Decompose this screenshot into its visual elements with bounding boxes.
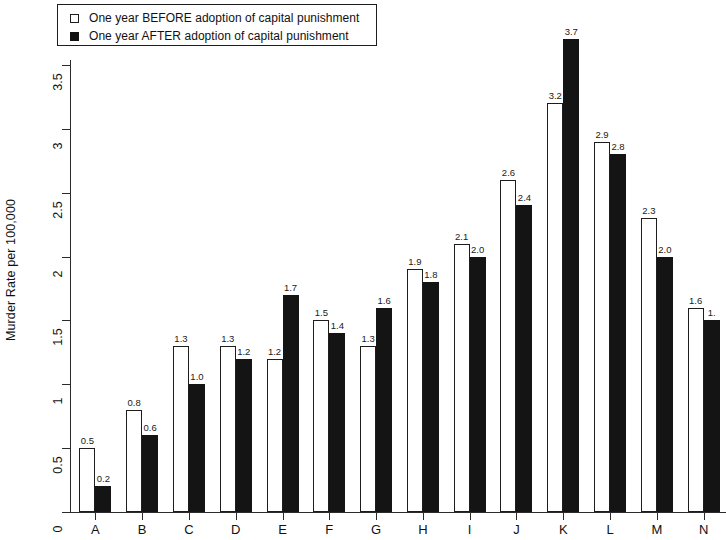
bar-value-label: 1.5 xyxy=(301,307,341,318)
legend-item-before: One year BEFORE adoption of capital puni… xyxy=(70,10,376,26)
bar-after xyxy=(329,333,345,512)
bar-after xyxy=(283,295,299,512)
bar-value-label: 0.2 xyxy=(83,473,123,484)
bar-value-label: 1.3 xyxy=(161,333,201,344)
bar-before xyxy=(313,320,329,512)
x-axis-tick-label: F xyxy=(309,522,349,537)
bar-before xyxy=(220,346,236,512)
x-axis-tick xyxy=(657,513,658,520)
chart-legend: One year BEFORE adoption of capital puni… xyxy=(57,4,377,46)
y-axis-tick-label: 2 xyxy=(51,254,65,294)
bar-value-label: 1. xyxy=(692,307,726,318)
x-axis-tick-label: H xyxy=(403,522,443,537)
bar-after xyxy=(704,320,720,512)
bar-after xyxy=(516,205,532,512)
x-axis-tick-label: E xyxy=(263,522,303,537)
bar-value-label: 2.0 xyxy=(458,244,498,255)
bar-before xyxy=(267,359,283,512)
x-axis-tick xyxy=(563,513,564,520)
bar-after xyxy=(423,282,439,512)
bar-value-label: 2.0 xyxy=(645,244,685,255)
bar-before xyxy=(641,218,657,512)
bar-value-label: 1.0 xyxy=(177,371,217,382)
bar-after xyxy=(610,154,626,512)
bar-value-label: 0.8 xyxy=(114,397,154,408)
x-axis-tick xyxy=(516,513,517,520)
x-axis-tick-label: N xyxy=(684,522,724,537)
bar-after xyxy=(95,486,111,512)
x-axis-tick xyxy=(283,513,284,520)
bar-before xyxy=(360,346,376,512)
legend-label-before: One year BEFORE adoption of capital puni… xyxy=(89,11,359,25)
legend-item-after: One year AFTER adoption of capital punis… xyxy=(70,28,376,44)
x-axis-tick xyxy=(189,513,190,520)
x-axis-tick xyxy=(236,513,237,520)
y-axis-tick-label: 0.5 xyxy=(51,445,65,485)
bar-before xyxy=(500,180,516,512)
bar-after xyxy=(470,257,486,512)
x-axis-tick-label: J xyxy=(496,522,536,537)
x-axis-tick-label: I xyxy=(450,522,490,537)
bar-after xyxy=(563,39,579,512)
y-axis-tick-label: 0 xyxy=(51,509,65,540)
y-axis-title: Murder Rate per 100,000 xyxy=(0,0,22,540)
x-axis-tick-label: A xyxy=(75,522,115,537)
x-axis-tick xyxy=(423,513,424,520)
bar-value-label: 2.3 xyxy=(629,205,669,216)
bar-after xyxy=(376,308,392,512)
x-axis-tick-label: L xyxy=(590,522,630,537)
bar-before xyxy=(454,244,470,512)
y-axis-tick-label: 1.5 xyxy=(51,317,65,357)
y-axis-tick-label: 3 xyxy=(51,126,65,166)
x-axis-tick xyxy=(610,513,611,520)
bar-value-label: 1.7 xyxy=(271,282,311,293)
x-axis-tick xyxy=(470,513,471,520)
bar-value-label: 1.9 xyxy=(395,256,435,267)
bar-chart: One year BEFORE adoption of capital puni… xyxy=(0,0,726,540)
bar-value-label: 2.9 xyxy=(582,129,622,140)
x-axis-line xyxy=(70,512,726,513)
y-axis-tick-label: 2.5 xyxy=(51,190,65,230)
y-axis-tick-label: 3.5 xyxy=(51,62,65,102)
open-square-icon xyxy=(70,14,79,23)
bar-value-label: 2.6 xyxy=(488,167,528,178)
bar-value-label: 1.6 xyxy=(676,295,716,306)
bar-before xyxy=(688,308,704,512)
y-axis-tick-label: 1 xyxy=(51,381,65,421)
bar-after xyxy=(142,435,158,512)
bar-value-label: 3.7 xyxy=(551,26,591,37)
bar-value-label: 1.6 xyxy=(364,295,404,306)
bar-value-label: 2.4 xyxy=(504,192,544,203)
bar-after xyxy=(189,384,205,512)
bar-value-label: 1.8 xyxy=(411,269,451,280)
bar-value-label: 2.8 xyxy=(598,141,638,152)
legend-label-after: One year AFTER adoption of capital punis… xyxy=(89,29,349,43)
x-axis-tick xyxy=(329,513,330,520)
bar-before xyxy=(594,142,610,512)
x-axis-tick-label: M xyxy=(637,522,677,537)
bar-after xyxy=(236,359,252,512)
x-axis-tick xyxy=(142,513,143,520)
x-axis-tick-label: C xyxy=(169,522,209,537)
x-axis-tick-label: K xyxy=(543,522,583,537)
bar-after xyxy=(657,257,673,512)
bar-before xyxy=(407,269,423,512)
x-axis-tick-label: D xyxy=(216,522,256,537)
x-axis-tick xyxy=(376,513,377,520)
bar-value-label: 0.5 xyxy=(67,435,107,446)
x-axis-tick xyxy=(95,513,96,520)
bar-value-label: 1.4 xyxy=(317,320,357,331)
bar-before xyxy=(547,103,563,512)
x-axis-tick xyxy=(704,513,705,520)
bar-value-label: 1.3 xyxy=(208,333,248,344)
x-axis-tick-label: G xyxy=(356,522,396,537)
x-axis-tick-label: B xyxy=(122,522,162,537)
bar-value-label: 2.1 xyxy=(442,231,482,242)
bar-value-label: 0.6 xyxy=(130,422,170,433)
filled-square-icon xyxy=(70,32,79,41)
